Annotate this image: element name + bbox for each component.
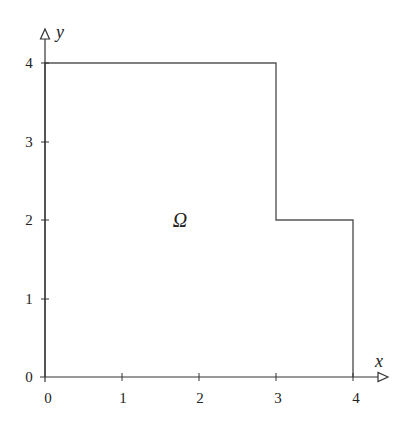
y-axis-label: y bbox=[54, 22, 64, 42]
y-axis-arrow-icon bbox=[41, 29, 50, 39]
x-tick-label: 0 bbox=[44, 390, 52, 406]
y-tick-label: 1 bbox=[25, 291, 33, 307]
y-tick-label: 2 bbox=[25, 212, 33, 228]
x-tick-label: 2 bbox=[196, 390, 204, 406]
domain-diagram: 0 1 2 3 4 0 1 2 3 4 x y Ω bbox=[0, 0, 409, 427]
x-tick-label: 3 bbox=[274, 390, 282, 406]
x-tick-label: 4 bbox=[352, 390, 360, 406]
x-axis-arrow-icon bbox=[378, 373, 388, 382]
x-axis-label: x bbox=[374, 351, 383, 371]
y-tick-label: 0 bbox=[25, 369, 33, 385]
x-tick-label: 1 bbox=[119, 390, 127, 406]
y-tick-label: 3 bbox=[25, 134, 33, 150]
region-boundary bbox=[45, 63, 353, 377]
y-tick-label: 4 bbox=[25, 55, 33, 71]
region-label-omega: Ω bbox=[173, 209, 187, 231]
